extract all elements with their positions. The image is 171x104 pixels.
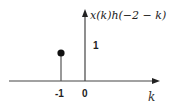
tick-label-minus-1: -1 xyxy=(55,88,64,99)
discrete-signal-diagram: x(k)h(−2 − k) 1 -1 0 k xyxy=(0,0,171,104)
y-axis-label: x(k)h(−2 − k) xyxy=(90,9,166,22)
y-axis-arrow-icon xyxy=(82,9,88,17)
x-axis-label: k xyxy=(148,90,155,104)
x-axis-arrow-icon xyxy=(152,78,160,84)
tick-label-0: 0 xyxy=(82,88,88,99)
value-label: 1 xyxy=(93,40,99,51)
sample-marker xyxy=(57,49,64,56)
